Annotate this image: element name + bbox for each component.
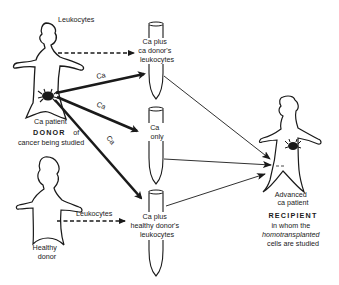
donor-title: DONOR — [33, 128, 66, 137]
transplant-arrows — [164, 76, 271, 206]
transplant-arrow-2 — [164, 159, 271, 165]
leukocytes-label-bottom: Leukocytes — [76, 209, 113, 218]
tube-2-label: Ca only — [150, 116, 164, 141]
ca-patient-label: Ca patient — [34, 117, 67, 126]
homotransplantation-diagram: Leukocytes Ca patient DONOR of cancer be… — [0, 0, 339, 285]
donor-role-desc: cancer being studied — [18, 138, 84, 147]
healthy-donor-figure — [16, 157, 82, 245]
ca-arrow-label-2: Ca — [95, 100, 107, 112]
ca-arrow-label-1: Ca — [96, 70, 107, 81]
transplant-arrow-1 — [164, 76, 270, 159]
tube-1-label: Ca plus ca donor's leukocytes — [138, 30, 175, 64]
leukocytes-label-top: Leukocytes — [58, 15, 95, 24]
transplant-arrow-3 — [166, 174, 265, 206]
recipient-patient-label: Advanced ca patient — [275, 183, 311, 207]
recipient-figure — [259, 96, 321, 192]
donor-title-suffix: of — [73, 128, 79, 137]
ca-arrow-label-3: Ca — [104, 134, 117, 147]
